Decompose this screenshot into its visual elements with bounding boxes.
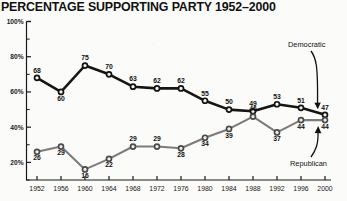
y-tick-label: 20% xyxy=(10,159,23,166)
data-label-democratic-1964: 70 xyxy=(105,63,113,70)
data-label-democratic-1952: 68 xyxy=(33,67,41,74)
annotation-arrow-republican xyxy=(311,131,318,157)
data-label-democratic-1972: 62 xyxy=(153,77,161,84)
data-label-democratic-1984: 50 xyxy=(225,98,233,105)
data-point-democratic-1960 xyxy=(83,63,88,68)
data-label-democratic-1980: 55 xyxy=(201,90,209,97)
data-point-democratic-1984 xyxy=(227,107,232,112)
y-tick-label: 80% xyxy=(10,53,23,60)
x-tick-label: 1964 xyxy=(101,185,116,192)
annotation-label-democratic: Democratic xyxy=(288,40,326,49)
data-point-democratic-1996 xyxy=(299,105,304,110)
data-label-republican-1992: 37 xyxy=(273,135,281,142)
x-tick-label: 1992 xyxy=(269,185,284,192)
data-point-republican-1972 xyxy=(155,144,160,149)
data-label-republican-1964: 22 xyxy=(105,161,113,168)
y-axis-tick-labels: 100%80%60%40%20% xyxy=(7,18,24,166)
data-label-republican-1960: 16 xyxy=(81,172,89,179)
data-point-democratic-1972 xyxy=(155,86,160,91)
data-label-republican-2000: 44 xyxy=(321,123,329,130)
data-label-republican-1976: 28 xyxy=(177,151,185,158)
x-tick-label: 1996 xyxy=(293,185,308,192)
data-label-democratic-1956: 60 xyxy=(57,95,65,102)
data-point-democratic-2000 xyxy=(323,112,328,117)
data-label-democratic-1996: 51 xyxy=(297,97,305,104)
annotation-arrow-democratic xyxy=(311,51,318,105)
data-point-republican-1988 xyxy=(251,114,256,119)
data-label-republican-1980: 34 xyxy=(201,140,209,147)
x-tick-label: 1972 xyxy=(149,185,164,192)
x-tick-label: 1968 xyxy=(125,185,140,192)
data-point-democratic-1980 xyxy=(203,98,208,103)
data-label-republican-1972: 29 xyxy=(153,135,161,142)
data-point-democratic-1976 xyxy=(179,86,184,91)
data-point-republican-1968 xyxy=(131,144,136,149)
chart-canvas: 100%80%60%40%20% 19521956196019641968197… xyxy=(0,0,347,201)
data-point-democratic-1952 xyxy=(35,75,40,80)
x-tick-label: 1952 xyxy=(29,185,44,192)
x-tick-label: 1960 xyxy=(77,185,92,192)
data-label-democratic-2000: 47 xyxy=(321,104,329,111)
x-tick-label: 1976 xyxy=(173,185,188,192)
data-point-democratic-1992 xyxy=(275,102,280,107)
annotation-arrowhead-democratic xyxy=(314,102,320,109)
x-tick-label: 1988 xyxy=(245,185,260,192)
data-label-republican-1968: 29 xyxy=(129,135,137,142)
x-tick-label: 2000 xyxy=(317,185,332,192)
data-label-democratic-1976: 62 xyxy=(177,77,185,84)
data-label-republican-1996: 44 xyxy=(297,123,305,130)
x-tick-label: 1984 xyxy=(221,185,236,192)
y-tick-label: 100% xyxy=(7,18,24,25)
data-label-republican-1952: 26 xyxy=(33,154,41,161)
data-point-democratic-1964 xyxy=(107,72,112,77)
data-point-democratic-1968 xyxy=(131,84,136,89)
x-axis-tick-labels: 1952195619601964196819721976198019841988… xyxy=(29,185,332,192)
y-tick-label: 40% xyxy=(10,124,23,131)
data-label-democratic-1992: 53 xyxy=(273,93,281,100)
annotation-label-republican: Republican xyxy=(290,159,327,168)
y-tick-label: 60% xyxy=(10,88,23,95)
data-label-democratic-1960: 75 xyxy=(81,54,89,61)
data-label-republican-1956: 29 xyxy=(57,149,65,156)
data-label-republican-1984: 39 xyxy=(225,132,233,139)
data-label-republican-1988: 46 xyxy=(249,105,257,112)
series-line-republican xyxy=(37,117,325,170)
x-tick-label: 1980 xyxy=(197,185,212,192)
x-tick-label: 1956 xyxy=(53,185,68,192)
data-label-democratic-1968: 63 xyxy=(129,75,137,82)
